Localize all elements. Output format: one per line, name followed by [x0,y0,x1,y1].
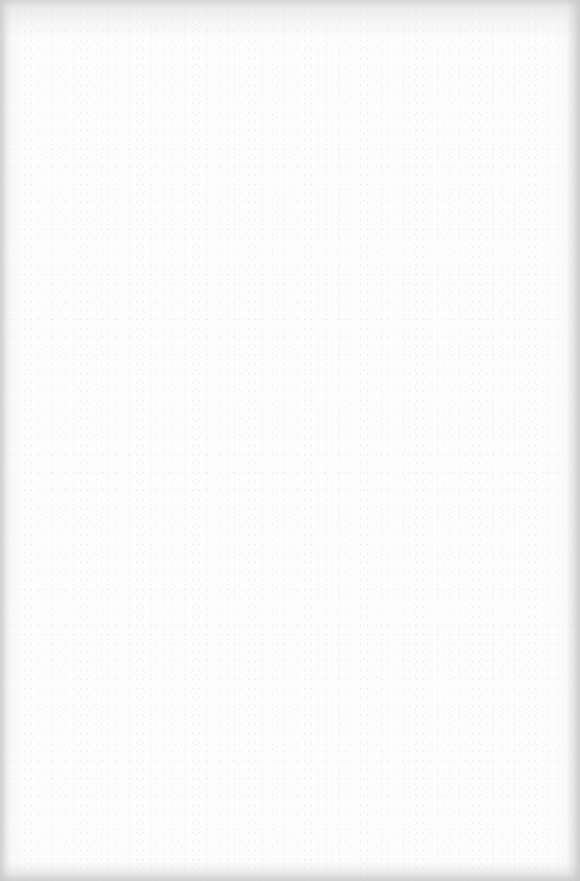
blank-page [0,0,580,881]
right-edge-shadow [566,0,580,881]
paper-texture [0,0,580,881]
left-edge-shadow [0,0,10,881]
page-vignette [0,0,580,881]
top-edge-shadow [0,0,580,40]
bottom-edge-shadow [0,863,580,881]
